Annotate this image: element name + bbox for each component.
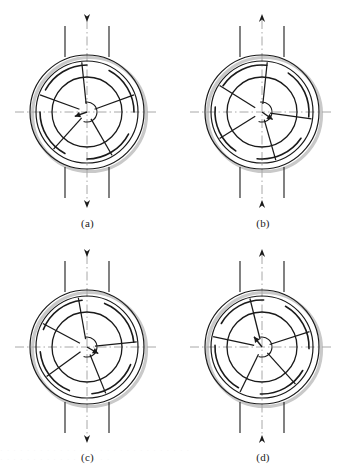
top-flow-arrowhead [84,14,90,22]
figure-root: (a) (b) (c) (d) · · · · · · · · · · · · … [0,0,351,469]
radial-spoke-1 [220,86,256,108]
panel-label-a: (a) [0,217,175,229]
bearing-diagram-b [175,0,351,235]
bearing-diagram-d [175,235,351,469]
radial-spoke-3 [91,119,112,155]
bearing-pad-3 [288,73,309,117]
bearing-pad-1 [215,107,236,151]
bottom-flow-arrowhead [84,435,90,443]
radial-spoke-0 [263,62,267,104]
bottom-flow-arrowhead [259,200,265,208]
radial-spoke-0 [82,62,86,104]
radial-spoke-4 [95,342,137,346]
radial-spoke-4 [270,113,312,119]
radial-spoke-4 [95,95,134,109]
radial-spoke-2 [240,354,258,392]
panel-label-d: (d) [175,451,351,463]
panel-d: (d) [175,235,351,469]
radial-spoke-4 [270,332,310,345]
panel-a: (a) [0,0,175,235]
top-flow-arrowhead [84,249,90,257]
panel-grid: (a) (b) (c) (d) [0,0,351,469]
bearing-pad-2 [257,138,301,159]
radial-spoke-1 [40,95,79,109]
bearing-diagram-a [0,0,175,235]
panel-label-c: (c) [0,451,175,463]
panel-c: (c) [0,235,175,469]
panel-b: (b) [175,0,351,235]
bottom-flow-arrowhead [259,435,265,443]
radial-spoke-0 [250,298,260,339]
radial-spoke-3 [267,353,295,384]
bottom-flow-arrowhead [84,200,90,208]
radial-spoke-2 [220,116,256,138]
radial-spoke-0 [78,298,85,339]
radial-spoke-3 [90,354,106,393]
bearing-diagram-c [0,235,175,469]
panel-label-b: (b) [175,217,351,229]
radial-spoke-1 [43,324,80,344]
radial-spoke-1 [213,337,254,346]
radial-spoke-2 [54,118,82,149]
radial-spoke-3 [264,120,276,160]
